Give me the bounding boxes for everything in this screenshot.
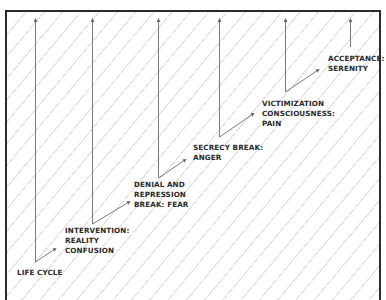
stage-label-victimization: VICTIMIZATION CONSCIOUSNESS: PAIN — [262, 99, 335, 129]
diagonal-arrow-4 — [220, 114, 254, 137]
stage-label-acceptance: ACCEPTANCE: SERENITY — [328, 54, 384, 74]
stage-label-life-cycle: LIFE CYCLE — [17, 268, 63, 278]
diagonal-arrow-3 — [159, 160, 186, 178]
stage-label-secrecy: SECRECY BREAK: ANGER — [193, 143, 263, 163]
diagonal-arrow-1 — [36, 249, 56, 262]
stage-label-intervention: INTERVENTION: REALITY CONFUSION — [65, 226, 129, 256]
diagonal-arrow-2 — [93, 202, 130, 224]
stage-label-denial: DENIAL AND REPRESSION BREAK: FEAR — [134, 180, 188, 210]
diagonal-arrow-5 — [286, 70, 319, 92]
